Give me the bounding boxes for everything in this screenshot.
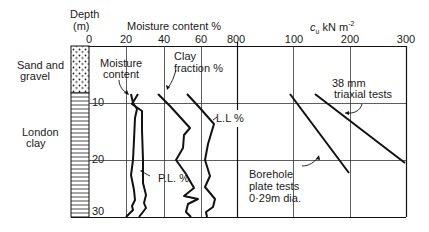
borehole-annotation-2: plate tests (249, 180, 299, 192)
moisture-annotation-2: content (103, 68, 139, 80)
borehole-annotation-1: Borehole (249, 168, 293, 180)
moisture-content-line (126, 94, 137, 217)
plastic-limit-annotation: P.L. % (158, 172, 189, 184)
clay-fraction-line (158, 94, 198, 217)
triaxial-annotation-2: triaxial tests (334, 88, 392, 100)
borehole-annotation-3: 0·29m dia. (249, 192, 301, 204)
sand-gravel-stratum (71, 46, 89, 93)
london-clay-stratum (71, 93, 89, 217)
liquid-limit-annotation: L.L % (216, 112, 244, 124)
triaxial-tests-line (315, 94, 405, 163)
borehole-plate-tests-line (290, 94, 349, 173)
clay-fraction-annotation-1: Clay (174, 50, 196, 62)
clay-fraction-annotation-2: fraction % (174, 62, 223, 74)
chart-canvas (0, 0, 429, 232)
